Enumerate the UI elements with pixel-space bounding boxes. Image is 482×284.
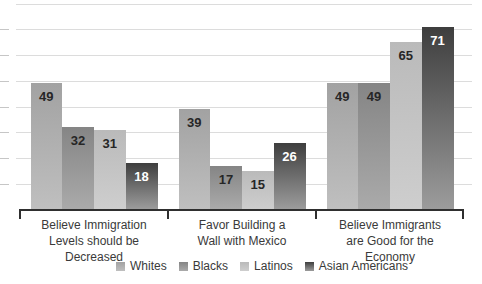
gridline xyxy=(16,29,472,30)
bar-value-label: 49 xyxy=(358,89,390,104)
bar-chart: 493949321749311565182671Believe Immigrat… xyxy=(0,0,482,284)
bar-value-label: 39 xyxy=(179,115,211,130)
y-axis-tick xyxy=(0,107,9,108)
legend-item-blacks: Blacks xyxy=(179,259,228,273)
bar-asian-americans xyxy=(422,27,454,210)
legend-item-latinos: Latinos xyxy=(240,259,293,273)
bar-value-label: 49 xyxy=(31,89,63,104)
bar-value-label: 32 xyxy=(62,133,94,148)
bar-value-label: 26 xyxy=(274,149,306,164)
bar-value-label: 49 xyxy=(327,89,359,104)
legend-swatch-icon xyxy=(305,262,314,271)
bar-value-label: 15 xyxy=(242,177,274,192)
category-label-line: Wall with Mexico xyxy=(168,233,316,249)
legend-label: Latinos xyxy=(254,259,293,273)
x-axis-line xyxy=(20,209,463,211)
legend-label: Whites xyxy=(130,259,167,273)
legend-label: Blacks xyxy=(193,259,228,273)
y-axis-tick xyxy=(0,29,9,30)
gridline xyxy=(16,4,472,5)
bar-value-label: 31 xyxy=(94,136,126,151)
bar-value-label: 18 xyxy=(126,169,158,184)
legend-swatch-icon xyxy=(179,262,188,271)
category-label-line: Believe Immigrants xyxy=(316,217,464,233)
y-axis-tick xyxy=(0,184,9,185)
bar-latinos xyxy=(390,42,422,209)
category-label-line: Believe Immigration xyxy=(20,217,168,233)
category-label-line: are Good for the xyxy=(316,233,464,249)
legend-label: Asian Americans xyxy=(319,259,408,273)
legend-item-whites: Whites xyxy=(116,259,167,273)
legend-item-asian-americans: Asian Americans xyxy=(305,259,408,273)
legend-swatch-icon xyxy=(240,262,249,271)
legend-swatch-icon xyxy=(116,262,125,271)
y-axis-tick xyxy=(0,158,9,159)
category-label-line: Levels should be xyxy=(20,233,168,249)
bar-value-label: 71 xyxy=(422,33,454,48)
y-axis-tick xyxy=(0,81,9,82)
bar-value-label: 65 xyxy=(390,48,422,63)
bar-value-label: 17 xyxy=(210,172,242,187)
category-label-line: Favor Building a xyxy=(168,217,316,233)
y-axis-tick xyxy=(0,132,9,133)
legend: WhitesBlacksLatinosAsian Americans xyxy=(116,258,408,274)
y-axis-tick xyxy=(0,55,9,56)
category-label: Favor Building aWall with Mexico xyxy=(168,217,316,249)
